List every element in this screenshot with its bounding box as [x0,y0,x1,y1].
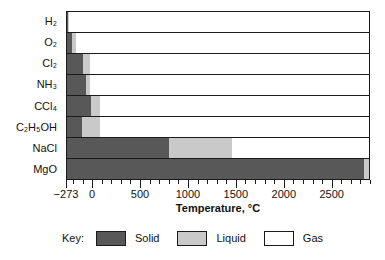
bar-row [67,138,369,159]
bar-segment-solid [67,75,86,95]
x-tick-major [332,180,333,188]
bar-segment-gas [76,33,369,53]
x-tick-major [92,180,93,188]
x-tick-minor [255,180,256,184]
legend-label-liquid: Liquid [216,233,245,244]
bar-segment-solid [67,138,169,158]
x-tick-major [188,180,189,188]
bar-segment-gas [100,96,369,116]
legend-label-gas: Gas [303,233,323,244]
bar-segment-gas [90,54,369,74]
x-tick-minor [111,180,112,184]
x-tick-minor [274,180,275,184]
bar-segment-liquid [364,159,369,179]
x-axis-title: Temperature, °C [66,203,370,214]
y-axis-label-h2: H₂ [0,11,62,32]
chart-legend: Key: Solid Liquid Gas [0,226,385,250]
x-tick-major [140,180,141,188]
x-tick-minor [169,180,170,184]
x-tick-minor [293,180,294,184]
x-tick-minor [226,180,227,184]
x-tick-minor [83,180,84,184]
legend-swatch-liquid-icon [177,231,207,246]
y-axis-label-o2: O₂ [0,32,62,53]
bar-row [67,33,369,54]
bar-segment-liquid [91,96,101,116]
bar-segment-solid [67,54,83,74]
x-tick-minor [360,180,361,184]
bar-segment-gas [100,117,369,137]
x-tick-label: 1000 [176,189,200,200]
x-tick-minor [150,180,151,184]
x-tick-major [236,180,237,188]
y-axis-category-labels: H₂O₂Cl₂NH₃CCl₄C₂H₅OHNaClMgO [0,11,62,180]
bar-row [67,75,369,96]
legend-item-gas: Gas [264,231,323,246]
y-axis-label-mgo: MgO [0,159,62,180]
bar-segment-gas [90,75,369,95]
x-tick-minor [370,180,371,184]
x-tick-minor [322,180,323,184]
bar-segment-solid [67,96,91,116]
x-tick-major [66,180,67,188]
x-tick-minor [207,180,208,184]
x-tick-label: 1500 [224,189,248,200]
x-tick-minor [178,180,179,184]
x-tick-minor [341,180,342,184]
x-tick-minor [73,180,74,184]
y-axis-label-ccl4: CCl₄ [0,96,62,117]
x-tick-label: −273 [54,189,79,200]
y-axis-label-c2h5oh: C₂H₅OH [0,117,62,138]
y-axis-label-nh3: NH₃ [0,74,62,95]
plot-area [66,11,370,180]
x-tick-minor [130,180,131,184]
bar-rows [67,12,369,179]
legend-item-liquid: Liquid [177,231,245,246]
x-tick-minor [121,180,122,184]
bar-row [67,12,369,33]
x-tick-minor [303,180,304,184]
bar-segment-solid [67,159,364,179]
x-tick-minor [159,180,160,184]
x-tick-minor [245,180,246,184]
x-tick-minor [198,180,199,184]
bar-segment-liquid [82,117,100,137]
legend-swatch-solid-icon [96,231,126,246]
bar-row [67,96,369,117]
legend-swatch-gas-icon [264,231,294,246]
x-tick-minor [102,180,103,184]
x-tick-label: 0 [89,189,95,200]
legend-label-solid: Solid [135,233,159,244]
x-tick-minor [265,180,266,184]
bar-row [67,117,369,138]
bar-segment-liquid [169,138,232,158]
x-tick-minor [313,180,314,184]
bar-row [67,159,369,179]
x-axis-tick-labels: −27305001000150020002500 [0,189,385,203]
phase-state-chart: H₂O₂Cl₂NH₃CCl₄C₂H₅OHNaClMgO −27305001000… [0,0,385,260]
y-axis-label-nacl: NaCl [0,138,62,159]
legend-title: Key: [62,232,84,244]
x-tick-major [284,180,285,188]
y-axis-label-cl2: Cl₂ [0,53,62,74]
x-tick-minor [351,180,352,184]
bar-segment-solid [67,117,82,137]
x-tick-minor [217,180,218,184]
legend-item-solid: Solid [96,231,159,246]
bar-segment-gas [232,138,369,158]
x-tick-label: 2000 [272,189,296,200]
bar-segment-gas [69,12,369,32]
x-tick-label: 500 [131,189,149,200]
bar-row [67,54,369,75]
x-tick-label: 2500 [319,189,343,200]
